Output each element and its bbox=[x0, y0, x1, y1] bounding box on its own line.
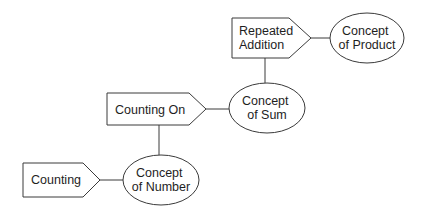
node-counting-on: Counting On bbox=[107, 93, 206, 125]
node-label: Counting bbox=[31, 173, 81, 187]
node-concept-of-number: Concept of Number bbox=[123, 155, 199, 205]
node-concept-of-product: Concept of Product bbox=[330, 13, 404, 63]
node-label: Concept of Sum bbox=[242, 94, 292, 122]
node-label: Counting On bbox=[115, 103, 185, 117]
node-repeated-addition: Repeated Addition bbox=[232, 18, 311, 58]
concept-map-diagram: Counting Concept of Number Counting On C… bbox=[0, 0, 426, 217]
node-counting: Counting bbox=[23, 163, 100, 197]
node-label: Concept of Product bbox=[339, 24, 397, 52]
node-concept-of-sum: Concept of Sum bbox=[229, 83, 305, 133]
node-label: Concept of Number bbox=[132, 166, 190, 194]
